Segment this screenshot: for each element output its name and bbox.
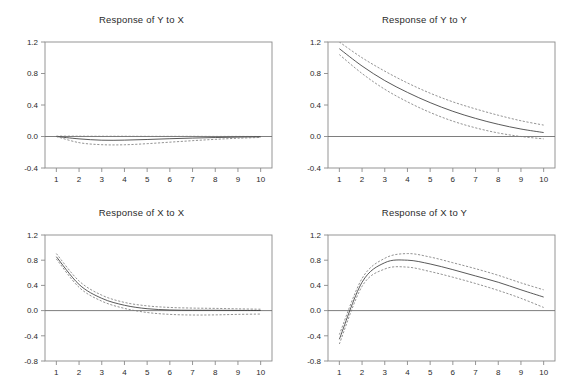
irf-response-line [56, 257, 260, 311]
x-tick-label: 9 [236, 175, 241, 184]
plot-svg: -0.40.00.40.81.212345678910 [283, 0, 566, 192]
x-tick-label: 5 [145, 368, 150, 377]
x-tick-label: 10 [256, 368, 265, 377]
x-tick-label: 9 [519, 175, 524, 184]
y-tick-label: 0.8 [310, 256, 322, 265]
y-tick-label: 1.2 [310, 38, 322, 47]
x-tick-label: 4 [405, 175, 410, 184]
y-tick-label: 0.0 [27, 306, 39, 315]
x-tick-label: 6 [168, 175, 173, 184]
x-tick-label: 3 [383, 368, 388, 377]
panel-response-y-to-x: Response of Y to X -0.40.00.40.81.212345… [0, 0, 283, 192]
x-tick-label: 2 [360, 175, 365, 184]
x-tick-label: 4 [122, 175, 127, 184]
x-tick-label: 3 [100, 175, 105, 184]
x-tick-label: 5 [145, 175, 150, 184]
panel-response-x-to-x: Response of X to X -0.8-0.40.00.40.81.21… [0, 193, 283, 385]
y-tick-label: -0.4 [24, 332, 38, 341]
x-tick-label: 3 [100, 368, 105, 377]
x-tick-label: 6 [168, 368, 173, 377]
x-tick-label: 2 [360, 368, 365, 377]
irf-confidence-band [339, 254, 543, 335]
plot-area: -0.8-0.40.00.40.81.212345678910 [0, 193, 283, 385]
panel-response-y-to-y: Response of Y to Y -0.40.00.40.81.212345… [283, 0, 566, 192]
y-tick-label: 0.0 [310, 132, 322, 141]
impulse-response-figure: Response of Y to X -0.40.00.40.81.212345… [0, 0, 566, 385]
y-tick-label: 1.2 [27, 38, 39, 47]
irf-confidence-band [56, 254, 260, 310]
x-tick-label: 5 [428, 175, 433, 184]
y-tick-label: 0.4 [310, 281, 322, 290]
x-tick-label: 5 [428, 368, 433, 377]
irf-response-line [339, 49, 543, 133]
x-tick-label: 7 [190, 175, 195, 184]
y-tick-label: 0.0 [310, 306, 322, 315]
y-tick-label: -0.4 [307, 164, 321, 173]
plot-svg: -0.8-0.40.00.40.81.212345678910 [0, 193, 283, 385]
irf-response-line [56, 137, 260, 141]
x-tick-label: 2 [77, 368, 82, 377]
y-tick-label: 0.4 [27, 281, 39, 290]
x-tick-label: 10 [256, 175, 265, 184]
panel-response-x-to-y: Response of X to Y -0.8-0.40.00.40.81.21… [283, 193, 566, 385]
x-tick-label: 8 [496, 175, 501, 184]
y-tick-label: 0.8 [27, 69, 39, 78]
x-tick-label: 4 [122, 368, 127, 377]
x-tick-label: 1 [337, 175, 342, 184]
plot-svg: -0.40.00.40.81.212345678910 [0, 0, 283, 192]
y-tick-label: 1.2 [310, 231, 322, 240]
x-tick-label: 4 [405, 368, 410, 377]
y-tick-label: 0.4 [27, 101, 39, 110]
x-tick-label: 8 [213, 368, 218, 377]
irf-confidence-band [56, 137, 260, 145]
y-tick-label: -0.4 [24, 164, 38, 173]
plot-area: -0.40.00.40.81.212345678910 [0, 0, 283, 192]
y-tick-label: -0.8 [307, 357, 321, 366]
irf-response-line [339, 260, 543, 339]
x-tick-label: 3 [383, 175, 388, 184]
y-tick-label: -0.4 [307, 332, 321, 341]
x-tick-label: 9 [519, 368, 524, 377]
x-tick-label: 8 [213, 175, 218, 184]
x-tick-label: 1 [54, 175, 59, 184]
y-tick-label: -0.8 [24, 357, 38, 366]
x-tick-label: 9 [236, 368, 241, 377]
x-tick-label: 6 [451, 175, 456, 184]
y-tick-label: 0.8 [27, 256, 39, 265]
irf-confidence-band [339, 55, 543, 139]
x-tick-label: 10 [539, 368, 548, 377]
irf-confidence-band [339, 42, 543, 125]
y-tick-label: 0.8 [310, 69, 322, 78]
x-tick-label: 6 [451, 368, 456, 377]
y-tick-label: 0.0 [27, 132, 39, 141]
y-tick-label: 1.2 [27, 231, 39, 240]
x-tick-label: 7 [190, 368, 195, 377]
plot-area: -0.40.00.40.81.212345678910 [283, 0, 566, 192]
irf-confidence-band [339, 267, 543, 344]
x-tick-label: 1 [337, 368, 342, 377]
plot-svg: -0.8-0.40.00.40.81.212345678910 [283, 193, 566, 385]
x-tick-label: 10 [539, 175, 548, 184]
x-tick-label: 2 [77, 175, 82, 184]
y-tick-label: 0.4 [310, 101, 322, 110]
x-tick-label: 1 [54, 368, 59, 377]
plot-area: -0.8-0.40.00.40.81.212345678910 [283, 193, 566, 385]
x-tick-label: 7 [473, 368, 478, 377]
x-tick-label: 8 [496, 368, 501, 377]
irf-confidence-band [56, 259, 260, 315]
x-tick-label: 7 [473, 175, 478, 184]
